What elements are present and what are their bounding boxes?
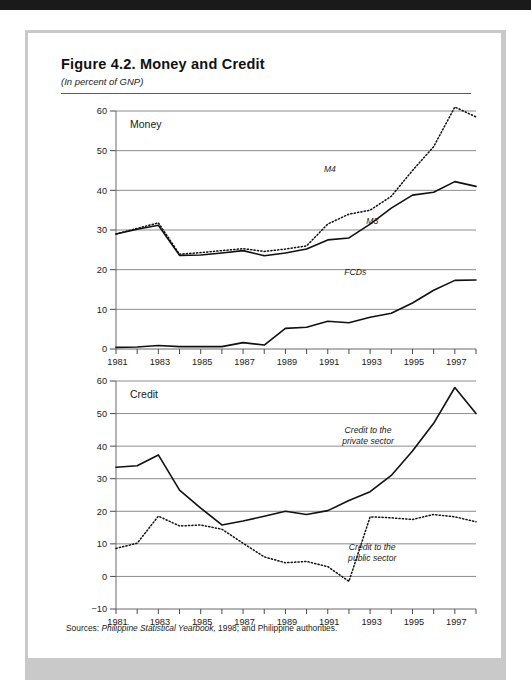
x-axis-tick-label: 1983 (150, 357, 170, 367)
x-axis-tick-label: 1997 (446, 357, 466, 367)
y-axis-tick-label: 10 (97, 305, 107, 315)
series-annotation: public sector (347, 553, 397, 563)
series-line (116, 182, 476, 256)
x-axis-tick-label: 1993 (361, 617, 381, 627)
x-axis-tick-label: 1991 (319, 357, 339, 367)
credit-chart: −100102030405060198119831985198719891991… (38, 373, 491, 635)
series-line (116, 107, 476, 254)
series-line (116, 280, 476, 347)
x-axis-tick-label: 1995 (404, 357, 424, 367)
y-axis-tick-label: 40 (97, 186, 107, 196)
source-remainder: 1998; and Philippine authorities. (218, 623, 337, 633)
series-annotation: Credit to the (349, 542, 396, 552)
y-axis-tick-label: 50 (97, 146, 107, 156)
x-axis-tick-label: 1993 (361, 357, 381, 367)
series-annotation: private sector (341, 436, 395, 446)
figure-card: Figure 4.2. Money and Credit (In percent… (28, 33, 501, 658)
x-axis-tick-label: 1997 (446, 617, 466, 627)
y-axis-tick-label: 20 (97, 507, 107, 517)
panel-title: Money (130, 118, 162, 130)
x-axis-tick-label: 1995 (404, 617, 424, 627)
title-divider (61, 93, 471, 94)
series-line (116, 388, 476, 525)
x-axis-tick-label: 1989 (277, 357, 297, 367)
y-axis-tick-label: −10 (91, 604, 107, 614)
series-annotation: M3 (366, 216, 378, 226)
page-top-band (0, 0, 531, 10)
y-axis-tick-label: 60 (97, 106, 107, 116)
series-annotation: Credit to the (345, 425, 392, 435)
document-page: Figure 4.2. Money and Credit (In percent… (0, 10, 531, 686)
panel-title: Credit (130, 388, 158, 400)
y-axis-tick-label: 30 (97, 474, 107, 484)
y-axis-tick-label: 50 (97, 409, 107, 419)
source-label: Sources: (66, 623, 99, 633)
figure-inner: Figure 4.2. Money and Credit (In percent… (28, 33, 501, 658)
figure-title: Figure 4.2. Money and Credit (61, 56, 265, 72)
y-axis-tick-label: 10 (97, 539, 107, 549)
money-chart: 0102030405060198119831985198719891991199… (38, 101, 491, 376)
x-axis-tick-label: 1985 (192, 357, 212, 367)
y-axis-tick-label: 20 (97, 265, 107, 275)
source-note: Sources: Philippine Statistical Yearbook… (66, 623, 337, 633)
series-line (116, 515, 476, 582)
y-axis-tick-label: 30 (97, 225, 107, 235)
series-annotation: FCDs (344, 267, 367, 277)
figure-subtitle: (In percent of GNP) (61, 76, 143, 87)
y-axis-tick-label: 60 (97, 376, 107, 386)
x-axis-tick-label: 1981 (107, 357, 127, 367)
x-axis-tick-label: 1987 (234, 357, 254, 367)
source-publication: Philippine Statistical Yearbook, (101, 623, 215, 633)
y-axis-tick-label: 40 (97, 442, 107, 452)
series-annotation: M4 (324, 164, 336, 174)
y-axis-tick-label: 0 (102, 572, 107, 582)
y-axis-tick-label: 0 (102, 344, 107, 354)
